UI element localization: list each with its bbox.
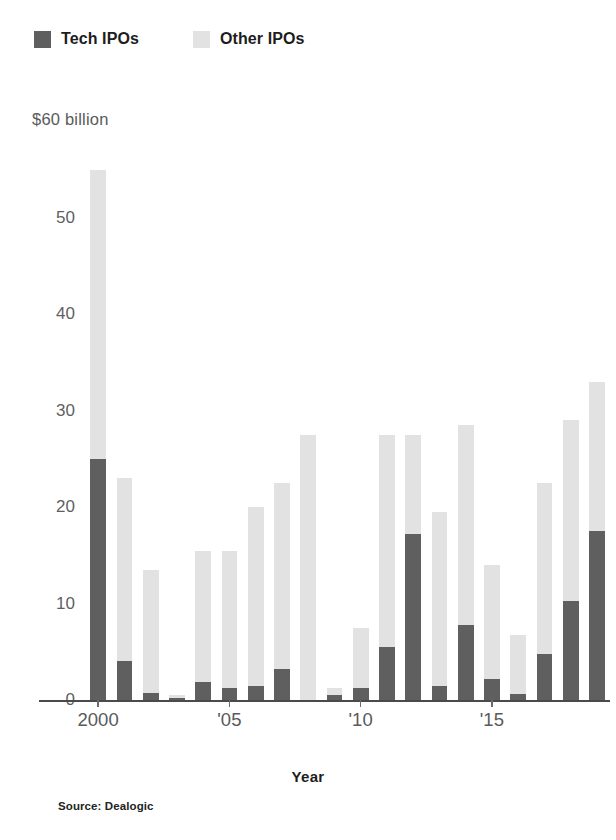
bar-segment-tech bbox=[484, 679, 500, 700]
legend-item-other-ipos: Other IPOs bbox=[193, 30, 305, 48]
bar-2000[interactable] bbox=[90, 170, 106, 700]
x-axis-baseline bbox=[39, 700, 610, 702]
y-axis-unit-caption: $60 billion bbox=[32, 110, 109, 129]
bar-2008[interactable] bbox=[300, 435, 316, 700]
bar-segment-tech bbox=[458, 625, 474, 700]
bar-segment-other bbox=[195, 551, 211, 682]
bar-segment-tech bbox=[248, 686, 264, 700]
bar-segment-other bbox=[143, 570, 159, 693]
bar-2016[interactable] bbox=[510, 635, 526, 700]
bar-2011[interactable] bbox=[379, 435, 395, 700]
bar-segment-tech bbox=[353, 688, 369, 700]
ipo-volume-chart: Tech IPOs Other IPOs $60 billion 0102030… bbox=[0, 0, 616, 840]
y-tick-label: 40 bbox=[27, 304, 75, 324]
bar-segment-other bbox=[90, 170, 106, 459]
x-tick-label: '15 bbox=[480, 709, 504, 731]
bar-segment-tech bbox=[589, 531, 605, 700]
bar-segment-other bbox=[589, 382, 605, 531]
bar-segment-other bbox=[510, 635, 526, 694]
bar-2017[interactable] bbox=[537, 483, 553, 700]
bar-2001[interactable] bbox=[117, 478, 133, 700]
x-tick-label: '10 bbox=[349, 709, 373, 731]
bar-segment-tech bbox=[405, 534, 421, 700]
bar-segment-tech bbox=[274, 669, 290, 700]
bar-segment-other bbox=[274, 483, 290, 669]
bar-segment-other bbox=[537, 483, 553, 654]
bar-segment-tech bbox=[143, 693, 159, 700]
y-tick-label: 30 bbox=[27, 401, 75, 421]
bar-2015[interactable] bbox=[484, 565, 500, 700]
bar-segment-tech bbox=[432, 686, 448, 700]
bar-2006[interactable] bbox=[248, 507, 264, 700]
legend-label-other: Other IPOs bbox=[220, 30, 305, 48]
bar-2012[interactable] bbox=[405, 435, 421, 700]
bar-2010[interactable] bbox=[353, 628, 369, 700]
bar-2005[interactable] bbox=[222, 551, 238, 700]
bar-segment-tech bbox=[222, 688, 238, 700]
bar-segment-other bbox=[248, 507, 264, 685]
y-tick-label: 50 bbox=[27, 208, 75, 228]
bar-segment-tech bbox=[537, 654, 553, 700]
bar-2018[interactable] bbox=[563, 420, 579, 700]
x-axis-title: Year bbox=[0, 768, 616, 785]
y-tick-label: 20 bbox=[27, 497, 75, 517]
x-tick-label: '05 bbox=[217, 709, 241, 731]
legend-swatch-other-icon bbox=[193, 31, 210, 48]
x-tick-mark bbox=[229, 700, 231, 707]
bar-segment-other bbox=[563, 420, 579, 600]
bar-2007[interactable] bbox=[274, 483, 290, 700]
bar-segment-other bbox=[222, 551, 238, 689]
x-tick-mark bbox=[360, 700, 362, 707]
legend-item-tech-ipos: Tech IPOs bbox=[34, 30, 139, 48]
legend-label-tech: Tech IPOs bbox=[61, 30, 139, 48]
source-note: Source: Dealogic bbox=[58, 800, 154, 812]
x-tick-mark bbox=[491, 700, 493, 707]
y-tick-label: 10 bbox=[27, 594, 75, 614]
bar-2002[interactable] bbox=[143, 570, 159, 700]
bar-segment-tech bbox=[195, 682, 211, 700]
bar-segment-other bbox=[300, 435, 316, 700]
bar-2013[interactable] bbox=[432, 512, 448, 700]
legend-swatch-tech-icon bbox=[34, 31, 51, 48]
bar-2014[interactable] bbox=[458, 425, 474, 700]
bar-segment-other bbox=[432, 512, 448, 686]
bar-2019[interactable] bbox=[589, 382, 605, 700]
bar-segment-tech bbox=[379, 647, 395, 700]
bar-2009[interactable] bbox=[327, 688, 343, 700]
bar-segment-other bbox=[405, 435, 421, 534]
bar-segment-tech bbox=[563, 601, 579, 700]
bar-segment-other bbox=[379, 435, 395, 647]
bar-segment-other bbox=[353, 628, 369, 689]
bar-segment-other bbox=[117, 478, 133, 661]
bar-segment-other bbox=[484, 565, 500, 679]
y-axis-tick-labels: 01020304050 bbox=[25, 160, 75, 700]
x-tick-label: 2000 bbox=[78, 709, 119, 731]
bar-2004[interactable] bbox=[195, 551, 211, 700]
bar-segment-tech bbox=[117, 661, 133, 700]
bar-segment-other bbox=[327, 688, 343, 695]
bar-segment-other bbox=[458, 425, 474, 625]
x-tick-mark bbox=[97, 700, 99, 707]
chart-legend: Tech IPOs Other IPOs bbox=[34, 30, 305, 48]
bar-segment-tech bbox=[90, 459, 106, 700]
plot-area: 01020304050 2000'05'10'15 bbox=[85, 160, 610, 700]
